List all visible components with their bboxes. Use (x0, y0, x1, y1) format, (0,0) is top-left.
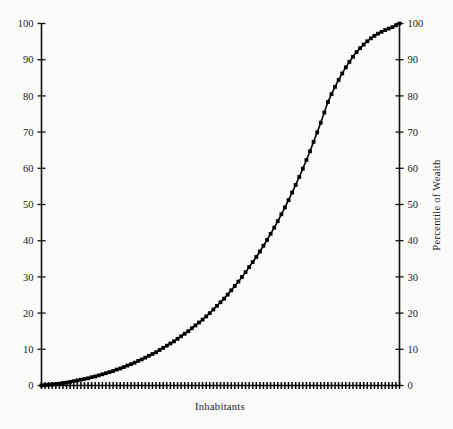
right-y-tick-label: 70 (408, 127, 419, 138)
series-marker (330, 92, 334, 96)
series-marker (72, 379, 76, 383)
left-y-tick-label: 70 (23, 127, 34, 138)
left-y-tick-label: 100 (18, 18, 34, 29)
series-marker (108, 370, 112, 374)
series-marker (179, 334, 183, 338)
series-marker (61, 381, 65, 385)
chart-canvas: 0102030405060708090100 01020304050607080… (0, 0, 453, 429)
series-marker (104, 371, 108, 375)
series-marker (355, 50, 359, 54)
series-marker (219, 300, 223, 304)
right-y-tick-label: 90 (408, 54, 419, 65)
series-marker (65, 381, 69, 385)
series-marker (133, 361, 137, 365)
chart-background (0, 0, 453, 429)
series-marker (344, 65, 348, 69)
left-y-tick-label: 90 (23, 54, 34, 65)
series-marker (154, 350, 158, 354)
right-y-tick-label: 0 (408, 380, 413, 391)
series-marker (136, 359, 140, 363)
series-marker (68, 380, 72, 384)
left-y-tick-label: 0 (28, 380, 33, 391)
series-marker (194, 324, 198, 328)
series-marker (50, 383, 54, 387)
series-marker (380, 30, 384, 34)
series-marker (97, 373, 101, 377)
series-marker (365, 39, 369, 43)
right-y-tick-label: 10 (408, 344, 419, 355)
series-marker (301, 167, 305, 171)
series-marker (326, 100, 330, 104)
left-y-tick-label: 80 (23, 91, 34, 102)
series-marker (229, 288, 233, 292)
series-marker (165, 344, 169, 348)
series-marker (151, 352, 155, 356)
series-marker (369, 36, 373, 40)
series-marker (283, 206, 287, 210)
series-marker (204, 314, 208, 318)
right-y-tick-label: 30 (408, 272, 419, 283)
right-y-tick-label: 80 (408, 91, 419, 102)
series-marker (319, 121, 323, 125)
left-y-tick-label: 30 (23, 272, 34, 283)
series-marker (376, 32, 380, 36)
series-marker (47, 383, 51, 387)
series-marker (197, 321, 201, 325)
series-marker (75, 379, 79, 383)
right-y-tick-label: 100 (408, 18, 424, 29)
series-marker (54, 382, 58, 386)
series-marker (126, 364, 130, 368)
right-y-axis-title: Percentile of Wealth (431, 159, 442, 251)
series-marker (240, 275, 244, 279)
series-marker (58, 382, 62, 386)
series-marker (272, 226, 276, 230)
series-marker (183, 332, 187, 336)
series-marker (244, 270, 248, 274)
series-marker (100, 372, 104, 376)
series-marker (190, 326, 194, 330)
series-marker (93, 375, 97, 379)
series-marker (279, 212, 283, 216)
series-marker (315, 131, 319, 135)
series-marker (373, 34, 377, 38)
series-marker (118, 367, 122, 371)
series-marker (265, 238, 269, 242)
series-marker (129, 362, 133, 366)
series-marker (176, 337, 180, 341)
series-marker (262, 244, 266, 248)
left-y-tick-label: 20 (23, 308, 34, 319)
series-marker (186, 329, 190, 333)
series-marker (115, 368, 119, 372)
series-marker (297, 175, 301, 179)
series-marker (215, 304, 219, 308)
series-marker (233, 284, 237, 288)
series-marker (140, 358, 144, 362)
series-marker (211, 308, 215, 312)
series-marker (398, 22, 402, 26)
series-marker (79, 378, 83, 382)
series-marker (308, 149, 312, 153)
series-marker (247, 265, 251, 269)
series-marker (226, 293, 230, 297)
series-marker (276, 219, 280, 223)
right-y-tick-label: 50 (408, 199, 419, 210)
right-y-tick-label: 60 (408, 163, 419, 174)
series-marker (322, 111, 326, 115)
series-marker (90, 375, 94, 379)
series-marker (86, 376, 90, 380)
series-marker (208, 311, 212, 315)
x-axis-rug-ticks (42, 382, 400, 389)
series-marker (383, 28, 387, 32)
series-marker (258, 250, 262, 254)
series-marker (122, 365, 126, 369)
series-marker (172, 339, 176, 343)
series-marker (337, 78, 341, 82)
series-marker (254, 255, 258, 259)
series-marker (222, 297, 226, 301)
series-marker (394, 23, 398, 27)
series-marker (143, 356, 147, 360)
x-axis-title: Inhabitants (195, 401, 245, 412)
series-marker (333, 85, 337, 89)
series-marker (347, 60, 351, 64)
series-marker (390, 25, 394, 29)
